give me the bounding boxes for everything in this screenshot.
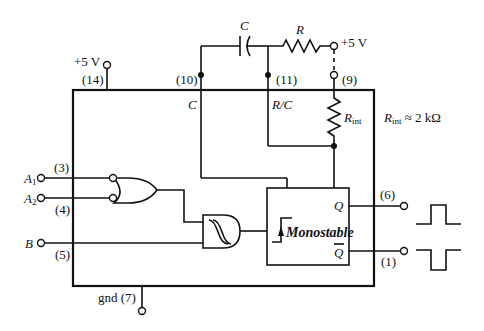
vcc-terminal-right: [331, 43, 338, 50]
rint-node: [331, 143, 337, 149]
pin5-label: (5): [55, 247, 70, 262]
qbar-pulse-waveform: [416, 250, 461, 270]
q-pulse-waveform: [416, 205, 461, 224]
b-label: B: [25, 236, 33, 251]
a1-label: A1: [23, 171, 36, 187]
pin11-label: (11): [276, 72, 297, 87]
or-to-and-wire: [157, 190, 203, 222]
b-terminal: [38, 240, 45, 247]
gnd-terminal: [139, 308, 146, 315]
pin10-label: (10): [176, 72, 198, 87]
rc-internal-label: R/C: [271, 97, 293, 112]
or-gate: [114, 178, 157, 203]
a2-inverter-bubble: [110, 195, 117, 202]
pin14-label: (14): [82, 72, 104, 87]
trigger-arrow-icon: [278, 226, 284, 236]
vcc-label-right: +5 V: [341, 35, 368, 50]
pin4-label: (4): [55, 202, 70, 217]
a2-terminal: [38, 195, 45, 202]
gnd-label: gnd (7): [98, 290, 136, 305]
monostable-circuit-diagram: +5 V (14) (10) C C (11) R/C R +5 V (9) R…: [0, 0, 484, 331]
a1-inverter-bubble: [110, 175, 117, 182]
c-internal-label: C: [188, 97, 197, 112]
external-resistor: [268, 40, 331, 52]
q-label: Q: [334, 198, 344, 213]
internal-resistor: [328, 79, 340, 188]
monostable-label: Monostable: [285, 225, 354, 240]
vcc-label-left: +5 V: [74, 54, 101, 69]
capacitor-label: C: [240, 18, 249, 33]
a2-label: A2: [23, 191, 36, 207]
rint-label: Rint: [343, 110, 362, 126]
pin9-terminal: [331, 72, 338, 79]
qbar-label: Q: [334, 245, 344, 260]
pin10-node: [198, 72, 204, 78]
pin11-node: [265, 72, 271, 78]
qbar-terminal: [401, 248, 408, 255]
a1-terminal: [38, 175, 45, 182]
pin1-label: (1): [381, 254, 396, 269]
pin6-label: (6): [380, 187, 395, 202]
resistor-label: R: [295, 22, 304, 37]
rint-value-note: Rint ≈ 2 kΩ: [383, 110, 441, 126]
pin14-terminal: [104, 62, 111, 69]
pin9-label: (9): [342, 72, 357, 87]
q-terminal: [401, 203, 408, 210]
pin3-label: (3): [54, 160, 69, 175]
